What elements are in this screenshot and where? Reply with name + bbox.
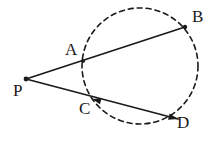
point-label-b: B — [192, 8, 203, 25]
vertex-dot-b — [183, 25, 187, 29]
vertex-dot-a — [81, 59, 85, 63]
point-label-d: D — [177, 114, 189, 131]
secant-segment-pb — [26, 27, 185, 79]
geometry-figure: P A B C D — [0, 0, 221, 145]
vertex-dot-p — [24, 77, 29, 82]
point-label-a: A — [65, 41, 77, 58]
point-label-c: C — [79, 100, 90, 117]
dashed-circle — [82, 8, 198, 124]
point-label-p: P — [13, 82, 22, 99]
secant-segment-pd — [26, 79, 178, 119]
